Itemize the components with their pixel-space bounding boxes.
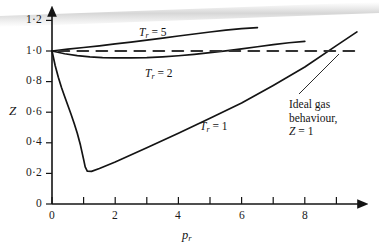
ideal-gas-annotation: Ideal gas behaviour, Z = 1: [289, 98, 337, 139]
y-tick-label-0-6: 0·6: [14, 105, 42, 117]
y-tick-label-0: 0: [24, 197, 42, 209]
curve-label-tr-1: Tr = 1: [200, 120, 228, 134]
y-axis-ticks: [46, 20, 52, 204]
y-tick-label-0-8: 0·8: [14, 74, 42, 86]
annotation-z-value: = 1: [295, 125, 313, 137]
tr2-value: = 2: [155, 67, 173, 79]
tr1-value: = 1: [210, 120, 228, 132]
figure-canvas: 0 0·2 0·4 0·6 0·8 1·0 1·2 0 2 4 6 8 Z pr…: [0, 0, 379, 250]
x-axis-ticks: [52, 197, 336, 204]
curve-tr-2-tail: [222, 40, 304, 49]
tr5-value: = 5: [149, 26, 167, 38]
annotation-line-2: behaviour,: [289, 112, 337, 126]
x-tick-label-0: 0: [42, 209, 62, 221]
y-tick-label-1-0: 1·0: [14, 44, 42, 56]
curve-label-tr-5: Tr = 5: [139, 26, 167, 40]
x-tick-label-4: 4: [168, 209, 188, 221]
annotation-leader-line: [299, 54, 339, 94]
curve-tr-2: [52, 41, 305, 58]
x-tick-label-2: 2: [105, 209, 125, 221]
y-tick-label-0-2: 0·2: [14, 166, 42, 178]
x-axis-title-subscript: r: [188, 233, 191, 243]
x-axis-title: pr: [182, 228, 192, 243]
annotation-line-3: Z = 1: [289, 125, 337, 139]
annotation-line-1: Ideal gas: [289, 98, 337, 112]
y-tick-label-0-4: 0·4: [14, 135, 42, 147]
y-tick-label-1-2: 1·2: [14, 13, 42, 25]
curve-label-tr-2: Tr = 2: [145, 67, 173, 81]
x-tick-label-8: 8: [295, 209, 315, 221]
x-tick-label-6: 6: [232, 209, 252, 221]
y-axis-title: Z: [9, 103, 16, 119]
